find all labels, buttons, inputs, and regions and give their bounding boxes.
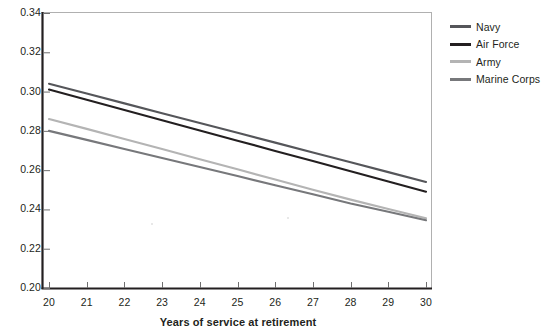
x-axis-title: Years of service at retirement [44, 316, 432, 328]
x-axis-tick-labels: 2021222324252627282930 [0, 296, 545, 312]
scan-speck [151, 223, 153, 225]
axis-ticks [44, 14, 427, 289]
scan-speck [287, 217, 289, 219]
plot-frame [42, 12, 433, 289]
x-tick-label: 27 [298, 296, 328, 308]
legend-label: Navy [476, 21, 500, 33]
x-tick-label: 23 [147, 296, 177, 308]
series-line-army [49, 119, 426, 218]
x-tick-label: 29 [373, 296, 403, 308]
legend-swatch-icon [450, 60, 471, 63]
legend-item-air-force: Air Force [450, 36, 545, 54]
legend-label: Air Force [476, 38, 520, 50]
legend-swatch-icon [450, 43, 471, 46]
x-tick-label: 22 [109, 296, 139, 308]
legend-label: Marine Corps [476, 73, 540, 85]
legend-swatch-icon [450, 78, 471, 81]
x-tick-label: 24 [185, 296, 215, 308]
chart-legend: NavyAir ForceArmyMarine Corps [450, 18, 545, 88]
data-lines [49, 84, 426, 221]
x-tick-label: 26 [260, 296, 290, 308]
x-tick-label: 28 [336, 296, 366, 308]
legend-swatch-icon [450, 25, 471, 28]
legend-label: Army [476, 56, 501, 68]
legend-item-army: Army [450, 53, 545, 71]
x-tick-label: 30 [411, 296, 441, 308]
x-tick-label: 20 [34, 296, 64, 308]
legend-item-marine-corps: Marine Corps [450, 71, 545, 89]
chart-figure: 0.200.220.240.260.280.300.320.34 2021222… [0, 0, 545, 334]
x-tick-label: 25 [223, 296, 253, 308]
legend-item-navy: Navy [450, 18, 545, 36]
x-tick-label: 21 [72, 296, 102, 308]
